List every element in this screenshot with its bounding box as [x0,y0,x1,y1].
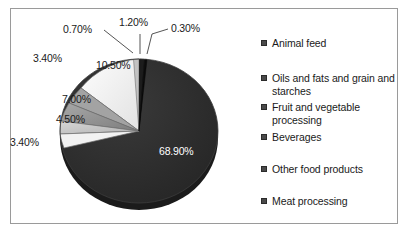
legend-item-label: Beverages [272,131,321,144]
leader-lines [104,29,168,54]
legend-item-other-food-products[interactable]: Other food products [261,163,363,176]
pie-label-3-40-lower: 3.40% [10,136,39,148]
pie-label-1-20: 1.20% [119,16,148,28]
legend-swatch-icon [261,75,267,81]
legend-swatch-icon [261,166,267,172]
pie-label-68-90: 68.90% [159,145,193,157]
legend-item-animal-feed[interactable]: Animal feed [261,37,326,50]
legend-item-label: Fruit and vegetable processing [272,101,396,126]
legend-item-label: Meat processing [272,195,348,208]
legend-item-label: Oils and fats and grain and starches [272,72,396,97]
legend-swatch-icon [261,104,267,110]
pie-label-7-00: 7.00% [62,93,91,105]
legend-item-label: Animal feed [272,37,326,50]
pie-top-face [60,59,218,203]
legend-item-label: Other food products [272,163,363,176]
legend-item-oils-fats-grain-starches[interactable]: Oils and fats and grain and starches [261,72,396,97]
pie-label-0-70: 0.70% [63,23,92,35]
legend-swatch-icon [261,198,267,204]
legend-swatch-icon [261,40,267,46]
legend-item-fruit-vegetable-processing[interactable]: Fruit and vegetable processing [261,101,396,126]
legend-item-meat-processing[interactable]: Meat processing [261,195,348,208]
legend-swatch-icon [261,134,267,140]
pie-label-10-50: 10.50% [96,59,130,71]
pie-label-0-30: 0.30% [171,22,200,34]
pie-label-3-40-upper: 3.40% [33,52,62,64]
legend-item-beverages[interactable]: Beverages [261,131,321,144]
pie-label-4-50: 4.50% [56,113,85,125]
